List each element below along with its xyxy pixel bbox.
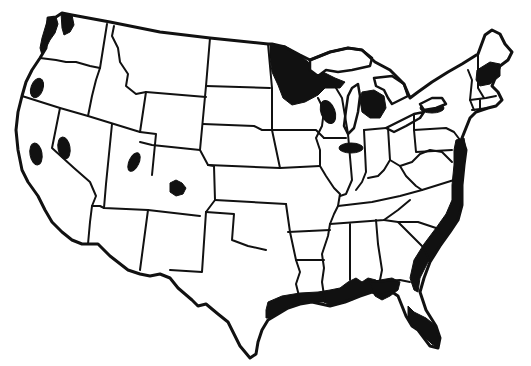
region-illinois-north	[339, 143, 363, 153]
region-oregon-cascades	[28, 77, 46, 100]
region-michigan-lower	[360, 90, 386, 118]
region-california-valley	[28, 142, 44, 166]
region-atlantic-coast	[410, 138, 466, 292]
region-utah	[125, 151, 143, 173]
region-colorado	[170, 180, 186, 196]
us-map	[0, 0, 531, 366]
region-nevada-west	[56, 136, 72, 160]
highlighted-regions	[28, 13, 500, 348]
